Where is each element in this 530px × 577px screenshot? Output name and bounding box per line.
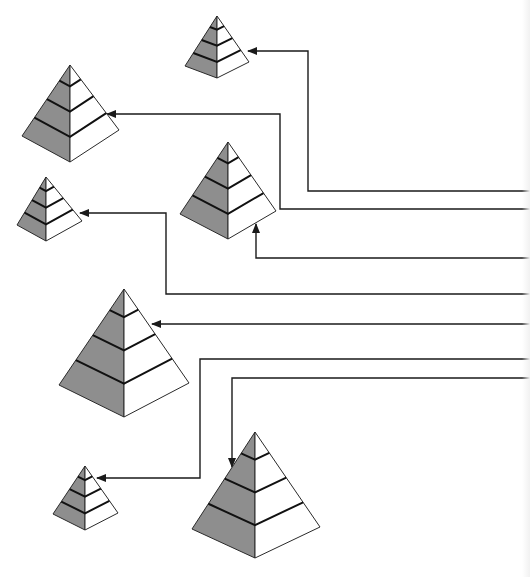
scan-edge-shadow bbox=[522, 0, 530, 577]
pyramid-shaded-face bbox=[59, 289, 124, 417]
pyramid bbox=[53, 466, 118, 530]
pyramid bbox=[185, 16, 249, 78]
pyramid-light-face bbox=[85, 466, 118, 530]
pyramid-light-face bbox=[228, 142, 276, 239]
pyramid-shaded-face bbox=[185, 16, 217, 78]
connector-arrow bbox=[256, 224, 530, 258]
pyramid-shaded-face bbox=[192, 432, 255, 558]
connector-arrow bbox=[248, 51, 530, 191]
pyramid bbox=[180, 142, 276, 239]
connectors-layer bbox=[80, 51, 530, 478]
pyramid bbox=[59, 289, 189, 417]
pyramid-shaded-face bbox=[22, 65, 70, 162]
pyramid-light-face bbox=[255, 432, 320, 558]
pyramid-shaded-face bbox=[180, 142, 228, 239]
pyramid-diagram bbox=[0, 0, 530, 577]
pyramid-shaded-face bbox=[53, 466, 85, 530]
connector-arrow bbox=[107, 114, 530, 209]
pyramids-layer bbox=[17, 16, 320, 558]
pyramid bbox=[17, 177, 82, 241]
pyramid-light-face bbox=[217, 16, 249, 78]
pyramid-light-face bbox=[46, 177, 82, 241]
connector-arrow bbox=[232, 378, 530, 467]
pyramid-light-face bbox=[124, 289, 189, 417]
pyramid-shaded-face bbox=[17, 177, 46, 241]
pyramid bbox=[22, 65, 119, 162]
connector-arrow bbox=[80, 213, 530, 294]
pyramid bbox=[192, 432, 320, 558]
